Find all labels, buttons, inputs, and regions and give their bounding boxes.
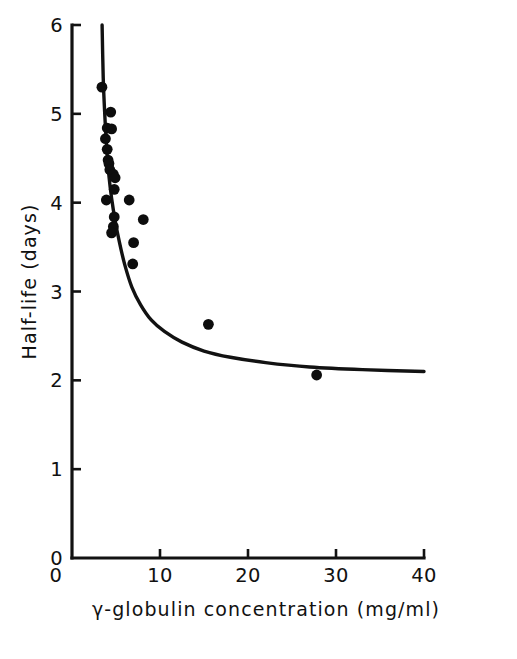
data-point [311, 370, 322, 381]
y-tick-label: 5 [50, 103, 63, 126]
data-point [109, 211, 120, 222]
fit-curve-path [102, 25, 424, 371]
data-point [105, 107, 116, 118]
y-tick-label: 3 [50, 281, 63, 304]
data-point [138, 214, 149, 225]
data-point [106, 227, 117, 238]
x-tick-label: 30 [323, 564, 349, 587]
y-tick-label: 2 [50, 369, 63, 392]
data-point [109, 184, 120, 195]
y-tick-label: 6 [50, 14, 63, 37]
scatter-plot: 0123456 010203040 γ-globulin concentrati… [0, 0, 517, 659]
figure-container: 0123456 010203040 γ-globulin concentrati… [0, 0, 517, 659]
data-point [128, 237, 139, 248]
x-tick-label: 20 [235, 564, 261, 587]
x-tick-label: 10 [147, 564, 173, 587]
data-point [97, 82, 108, 93]
data-point [127, 259, 138, 270]
y-axis-title: Half-life (days) [18, 204, 40, 360]
y-tick-label: 4 [50, 192, 63, 215]
fitted-curve-group [102, 25, 424, 371]
data-point [106, 124, 117, 135]
data-point [102, 144, 113, 155]
data-points-group [97, 82, 323, 381]
data-point [124, 195, 135, 206]
x-tick-label: 0 [50, 564, 63, 587]
data-point [100, 133, 111, 144]
data-point [110, 172, 121, 183]
data-point [203, 319, 214, 330]
y-axis-ticks: 0123456 [50, 14, 81, 570]
x-axis-title: γ-globulin concentration (mg/ml) [92, 598, 440, 620]
data-point [101, 195, 112, 206]
y-tick-label: 1 [50, 458, 63, 481]
axis-group [72, 25, 424, 558]
x-tick-label: 40 [411, 564, 437, 587]
x-axis-ticks: 010203040 [50, 549, 437, 587]
